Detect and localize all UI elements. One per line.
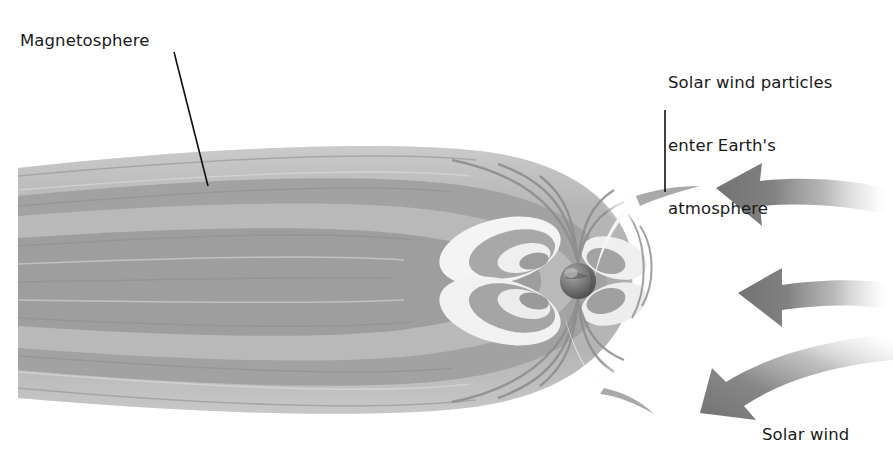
solar-wind-arrow-top	[716, 163, 893, 226]
solar-wind-arrows	[700, 163, 893, 420]
magnetosphere-diagram: Magnetosphere Solar wind particles enter…	[0, 0, 893, 461]
earth	[560, 263, 596, 299]
northern-cusp-inflow	[636, 186, 700, 206]
magnetosphere-illustration	[0, 0, 893, 461]
magnetosphere-body	[18, 146, 653, 414]
southern-cusp-inflow	[600, 388, 654, 414]
earth-sphere	[560, 263, 596, 299]
solar-wind-arrow-middle	[738, 268, 893, 327]
earth-highlight	[565, 268, 578, 278]
solar-wind-arrow-bottom	[700, 334, 893, 420]
